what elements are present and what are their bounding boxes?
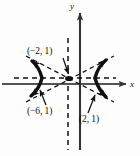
y-axis-label: y bbox=[70, 2, 74, 11]
leader-line-left-vertex bbox=[40, 90, 46, 105]
x-axis-label: x bbox=[130, 80, 134, 89]
point-label-right-vertex: (2, 1) bbox=[79, 115, 99, 125]
graph-canvas bbox=[0, 0, 140, 156]
leader-line-right-vertex bbox=[88, 95, 95, 113]
hyperbola-graph-figure: (−2, 1) (−6, 1) (2, 1) y x bbox=[0, 0, 140, 156]
right-branch-lower-arm bbox=[95, 78, 106, 97]
point-label-center: (−2, 1) bbox=[27, 47, 52, 57]
point-label-left-vertex: (−6, 1) bbox=[27, 107, 52, 117]
left-branch-lower-arm bbox=[31, 78, 42, 96]
center-point-marker bbox=[65, 76, 73, 81]
